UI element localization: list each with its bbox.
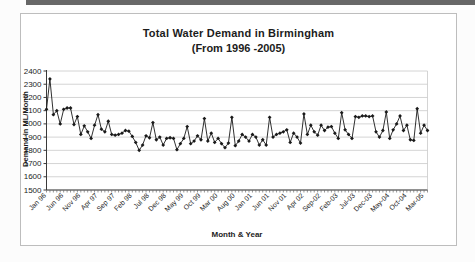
- page: { "page": { "scan_bar_color": "#4b4b4b",…: [0, 0, 475, 262]
- data-point-marker: [299, 141, 303, 145]
- data-point-marker: [209, 131, 213, 135]
- data-point-marker: [364, 114, 368, 118]
- axes: [47, 70, 428, 190]
- data-point-marker: [278, 131, 282, 135]
- svg-text:1600: 1600: [24, 172, 42, 181]
- data-series: [45, 77, 430, 152]
- data-point-marker: [412, 139, 416, 143]
- data-point-marker: [58, 122, 62, 126]
- data-point-marker: [69, 106, 73, 110]
- x-tick-label: Feb 98: [113, 192, 133, 212]
- data-point-marker: [329, 125, 333, 129]
- line-chart-plot: 1500160017001800190020002100220023002400…: [21, 14, 456, 245]
- data-point-marker: [268, 115, 272, 119]
- svg-text:2100: 2100: [24, 106, 42, 115]
- data-point-marker: [357, 115, 361, 119]
- data-point-marker: [419, 131, 423, 135]
- x-tick-labels: Jan 96Jun 96Nov 96Apr 97Sep 97Feb 98Jul …: [27, 192, 424, 214]
- data-point-marker: [48, 77, 52, 81]
- x-tick-label: Nov 96: [61, 192, 82, 213]
- data-point-marker: [408, 138, 412, 142]
- data-point-marker: [391, 128, 395, 132]
- data-point-marker: [230, 115, 234, 119]
- svg-text:1700: 1700: [24, 159, 42, 168]
- data-point-marker: [185, 125, 189, 129]
- data-point-marker: [72, 123, 76, 127]
- data-point-marker: [395, 122, 399, 126]
- svg-text:1500: 1500: [24, 186, 42, 195]
- x-tick-label: Sep 97: [95, 192, 116, 213]
- data-point-marker: [117, 133, 121, 137]
- x-tick-label: Aug 00: [215, 192, 236, 213]
- data-point-marker: [288, 141, 292, 145]
- x-tick-label: Jan 01: [233, 192, 253, 212]
- data-point-marker: [96, 113, 100, 117]
- x-tick-label: Mar-05: [404, 192, 425, 213]
- svg-text:2200: 2200: [24, 93, 42, 102]
- data-point-marker: [75, 115, 79, 119]
- svg-text:2000: 2000: [24, 119, 42, 128]
- y-tick-labels: 1500160017001800190020002100220023002400: [24, 67, 47, 195]
- data-point-marker: [285, 128, 289, 132]
- svg-text:2400: 2400: [24, 67, 42, 76]
- series-line: [47, 79, 428, 150]
- svg-text:1800: 1800: [24, 146, 42, 155]
- x-tick-label: Sep-02: [301, 192, 323, 214]
- data-point-marker: [106, 119, 110, 123]
- data-point-marker: [302, 112, 306, 116]
- scan-artifact-bar: [26, 0, 475, 5]
- data-point-marker: [305, 133, 309, 137]
- data-point-marker: [110, 133, 114, 137]
- data-point-marker: [113, 133, 117, 137]
- data-point-marker: [161, 143, 165, 147]
- data-point-marker: [79, 133, 83, 137]
- data-point-marker: [206, 139, 210, 143]
- data-point-marker: [371, 114, 375, 118]
- data-point-marker: [148, 136, 152, 140]
- x-tick-label: Feb-03: [318, 192, 339, 213]
- data-point-marker: [134, 141, 138, 145]
- data-point-marker: [381, 129, 385, 133]
- data-point-marker: [202, 117, 206, 121]
- chart-frame: Total Water Demand in Birmingham (From 1…: [20, 13, 457, 246]
- data-point-marker: [281, 130, 285, 134]
- data-point-marker: [360, 114, 364, 118]
- data-point-marker: [168, 136, 172, 140]
- data-point-marker: [354, 115, 358, 119]
- data-point-marker: [340, 111, 344, 115]
- data-point-marker: [175, 148, 179, 152]
- x-tick-label: May-04: [369, 192, 391, 214]
- data-point-marker: [398, 114, 402, 118]
- data-point-marker: [415, 107, 419, 111]
- svg-text:2300: 2300: [24, 80, 42, 89]
- data-point-marker: [367, 115, 371, 119]
- data-point-marker: [82, 124, 86, 128]
- x-tick-label: Jan 96: [27, 192, 47, 212]
- svg-text:1900: 1900: [24, 133, 42, 142]
- data-point-marker: [65, 106, 69, 110]
- x-tick-label: Nov 01: [267, 192, 288, 213]
- x-tick-label: May 99: [163, 192, 185, 214]
- data-point-marker: [86, 130, 90, 134]
